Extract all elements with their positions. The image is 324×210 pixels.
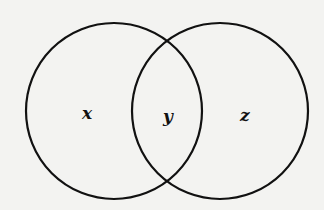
venn-diagram: x y z [0, 0, 324, 210]
venn-svg: x y z [0, 0, 324, 210]
left-circle [26, 23, 202, 199]
region-label-y: y [162, 106, 174, 126]
right-circle [132, 23, 308, 199]
region-label-z: z [239, 105, 250, 125]
region-label-x: x [81, 103, 93, 123]
